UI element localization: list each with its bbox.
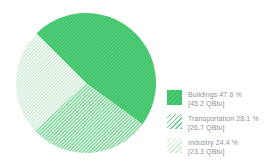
legend-item-buildings: Buildings 47.6 % [45.2 QBtu] bbox=[167, 90, 259, 108]
legend-sublabel-industry: [23.3 QBtu] bbox=[188, 147, 238, 156]
legend-swatch-buildings bbox=[167, 90, 182, 105]
pie-chart-figure: Buildings 47.6 % [45.2 QBtu] Transportat… bbox=[0, 0, 269, 163]
legend-swatch-industry bbox=[167, 138, 182, 153]
legend-label-transportation: Transportation 28.1 % bbox=[188, 114, 259, 123]
legend-sublabel-buildings: [45.2 QBtu] bbox=[188, 99, 242, 108]
legend-sublabel-transportation: [26.7 QBtu] bbox=[188, 123, 259, 132]
legend-label-buildings: Buildings 47.6 % bbox=[188, 90, 242, 99]
legend-item-transportation: Transportation 28.1 % [26.7 QBtu] bbox=[167, 114, 259, 132]
legend-label-industry: Industry 24.4 % bbox=[188, 138, 238, 147]
legend-swatch-transportation bbox=[167, 114, 182, 129]
legend: Buildings 47.6 % [45.2 QBtu] Transportat… bbox=[167, 90, 259, 156]
legend-item-industry: Industry 24.4 % [23.3 QBtu] bbox=[167, 138, 259, 156]
